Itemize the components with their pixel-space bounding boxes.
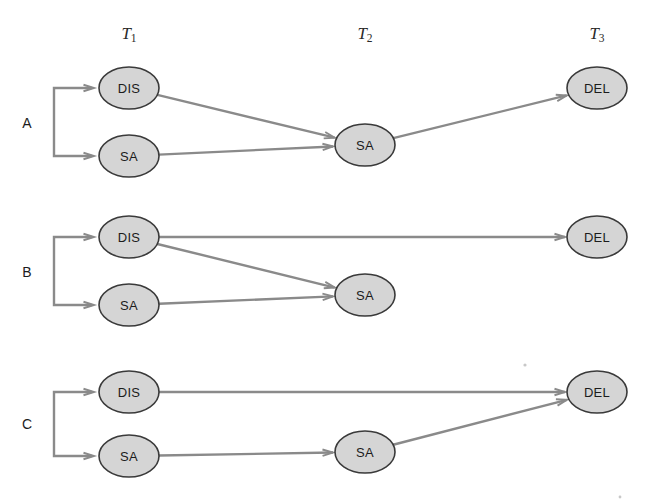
node-c-t2-sa[interactable]: SA <box>335 431 395 473</box>
node-label: SA <box>356 138 374 153</box>
node-label: SA <box>120 298 138 313</box>
node-label: DEL <box>584 230 610 245</box>
edge-line <box>157 95 334 138</box>
node-label: DIS <box>118 81 141 96</box>
node-b-t1-dis[interactable]: DIS <box>99 216 159 258</box>
edge-c-t2-sa-to-c-t3-del <box>393 399 567 444</box>
node-group: DISSASADELDISSASADELDISSASADEL <box>99 67 627 477</box>
scan-speck <box>523 363 526 366</box>
node-a-t3-del[interactable]: DEL <box>567 67 627 109</box>
row-label-c: C <box>22 416 32 432</box>
node-a-t1-sa[interactable]: SA <box>99 135 159 177</box>
node-b-t3-del[interactable]: DEL <box>567 216 627 258</box>
row-label-group: ABC <box>22 115 32 432</box>
node-c-t1-sa[interactable]: SA <box>99 435 159 477</box>
edge-line <box>159 296 333 303</box>
node-label: DIS <box>118 385 141 400</box>
edge-line <box>159 453 333 456</box>
edge-a-t1-dis-to-a-t2-sa <box>157 95 334 139</box>
edge-b-t1-dis-to-b-t3-del <box>159 234 565 241</box>
row-label-b: B <box>22 264 31 280</box>
node-label: DIS <box>118 230 141 245</box>
bracket-group <box>54 85 94 460</box>
bracket-path <box>54 88 92 156</box>
edge-a-t2-sa-to-a-t3-del <box>393 95 566 138</box>
column-header-t3: T3 <box>589 24 604 45</box>
node-label: SA <box>120 149 138 164</box>
node-c-t3-del[interactable]: DEL <box>567 371 627 413</box>
state-transition-diagram: T1T2T3 ABC DISSASADELDISSASADELDISSASADE… <box>0 0 655 503</box>
node-a-t2-sa[interactable]: SA <box>335 124 395 166</box>
node-label: DEL <box>584 81 610 96</box>
bracket-path <box>54 237 92 305</box>
node-a-t1-dis[interactable]: DIS <box>99 67 159 109</box>
node-c-t1-dis[interactable]: DIS <box>99 371 159 413</box>
edge-line <box>159 146 333 154</box>
edge-c-t1-sa-to-c-t2-sa <box>159 449 333 456</box>
edge-line <box>393 95 566 138</box>
diagram-canvas: T1T2T3 ABC DISSASADELDISSASADELDISSASADE… <box>0 0 655 503</box>
bracket-path <box>54 392 92 456</box>
input-bracket-row-c <box>54 389 94 460</box>
node-label: SA <box>356 445 374 460</box>
column-header-group: T1T2T3 <box>121 24 604 45</box>
edge-b-t1-dis-to-b-t2-sa <box>157 244 334 288</box>
column-header-t2: T2 <box>357 24 372 45</box>
edge-b-t1-sa-to-b-t2-sa <box>159 294 333 304</box>
edge-line <box>393 400 567 445</box>
input-bracket-row-b <box>54 234 94 309</box>
node-b-t1-sa[interactable]: SA <box>99 284 159 326</box>
edge-c-t1-dis-to-c-t3-del <box>159 389 565 396</box>
node-label: SA <box>120 449 138 464</box>
row-label-a: A <box>22 115 32 131</box>
edge-a-t1-sa-to-a-t2-sa <box>159 144 333 155</box>
edge-line <box>157 244 334 288</box>
scan-speck <box>619 496 622 499</box>
node-label: SA <box>356 288 374 303</box>
input-bracket-row-a <box>54 85 94 160</box>
node-label: DEL <box>584 385 610 400</box>
node-b-t2-sa[interactable]: SA <box>335 274 395 316</box>
column-header-t1: T1 <box>121 24 136 45</box>
